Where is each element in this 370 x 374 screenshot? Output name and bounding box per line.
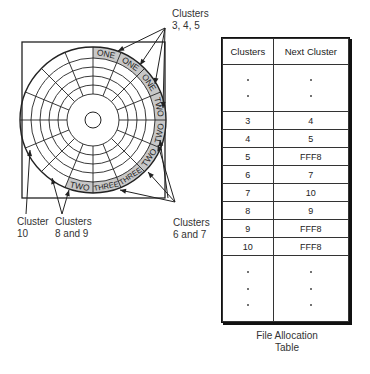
hub-hole [85, 112, 101, 128]
callout-cluster-10: Cluster 10 [17, 216, 49, 240]
arrow-head [65, 190, 70, 196]
cell-next-cluster: 5 [273, 130, 348, 148]
cell-cluster: 3 [223, 112, 274, 130]
sector-line [111, 68, 144, 101]
cell-next-cluster: FFF8 [273, 238, 348, 256]
cell-next-cluster: 9 [273, 202, 348, 220]
callout-clusters-3-4-5: Clusters 3, 4, 5 [172, 8, 209, 32]
cell-cluster: 8 [223, 202, 274, 220]
table-row: 710 [223, 184, 349, 202]
cell-cluster: 5 [223, 148, 274, 166]
cell-cluster: 6 [223, 166, 274, 184]
header-next-cluster: Next Cluster [273, 39, 348, 65]
table-row: 67 [223, 166, 349, 184]
arrow-head [120, 189, 126, 194]
cell-next-cluster: 10 [273, 184, 348, 202]
arrow-line [26, 150, 30, 214]
sector-line [41, 138, 74, 171]
fat-caption: File Allocation Table [221, 330, 353, 354]
cell-cluster: 10 [223, 238, 274, 256]
table-row: 10FFF8 [223, 238, 349, 256]
table-row: 89 [223, 202, 349, 220]
file-allocation-table: Clusters Next Cluster 34455FFF867710899F… [221, 37, 350, 323]
callout-clusters-6-7: Clusters 6 and 7 [173, 217, 210, 241]
table-row: 5FFF8 [223, 148, 349, 166]
cell-next-cluster: FFF8 [273, 148, 348, 166]
cell-next-cluster: FFF8 [273, 220, 348, 238]
arrow-line [158, 145, 175, 202]
ellipsis-row-bottom [223, 256, 349, 322]
arrow-head [140, 59, 145, 65]
cell-cluster: 4 [223, 130, 274, 148]
cell-next-cluster: 7 [273, 166, 348, 184]
cell-next-cluster: 4 [273, 112, 348, 130]
arrow-line [118, 28, 165, 51]
sector-line [41, 68, 74, 101]
table-row: 9FFF8 [223, 220, 349, 238]
table-row: 34 [223, 112, 349, 130]
cell-cluster: 9 [223, 220, 274, 238]
ellipsis-row-top [223, 65, 349, 112]
arrow-head [51, 178, 56, 184]
header-clusters: Clusters [223, 39, 274, 65]
table-row: 45 [223, 130, 349, 148]
callout-clusters-8-9: Clusters 8 and 9 [55, 216, 92, 240]
cell-cluster: 7 [223, 184, 274, 202]
disk-platter: ONEONEONETWOTWOTWOTHREETHREETWO [20, 47, 166, 193]
sector-line [111, 138, 144, 171]
